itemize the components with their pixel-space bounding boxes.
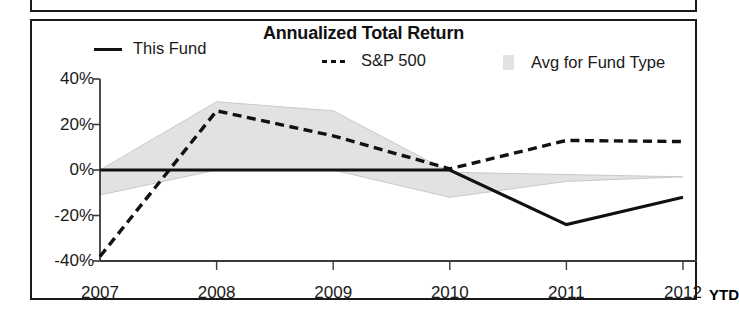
solid-line-swatch-icon [94,42,122,56]
y-axis-labels: 40%20%0%-20%-40% [34,79,94,261]
annualized-total-return-chart-panel: Annualized Total Return This Fund S&P 50… [30,19,697,300]
plot-area [100,79,683,261]
x-axis-labels: 200720082009201020112012YTD [32,283,695,309]
shaded-band-swatch-icon [502,54,515,71]
dashed-line-swatch-icon [322,54,350,68]
legend-label-this-fund: This Fund [133,39,206,58]
y-axis-tick-label: 0% [38,160,94,180]
legend-label-sp500: S&P 500 [361,51,426,70]
legend-item-this-fund: This Fund [94,39,206,58]
x-axis-tick-label: 2012 [664,283,702,303]
y-axis-tick-label: -40% [38,251,94,271]
x-axis-tick-label: 2008 [198,283,236,303]
x-axis-tick-label: 2010 [431,283,469,303]
x-axis-tick-label: 2007 [81,283,119,303]
previous-panel-edge [30,0,697,12]
x-axis-ytd-marker: YTD [709,286,739,303]
x-axis-tick-label: 2011 [548,283,585,303]
y-axis-tick-label: 40% [38,69,94,89]
x-axis-tick-label: 2009 [314,283,352,303]
chart-canvas [100,79,683,261]
legend-item-sp500: S&P 500 [322,51,426,70]
y-axis-tick-label: -20% [38,206,94,226]
legend-label-avg-for-fund-type: Avg for Fund Type [531,53,665,72]
y-axis-tick-label: 20% [38,115,94,135]
legend-item-avg-for-fund-type: Avg for Fund Type [502,53,665,72]
